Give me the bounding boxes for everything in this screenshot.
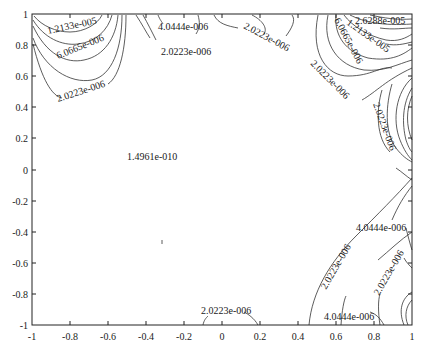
x-tick-label: 1	[410, 331, 415, 342]
x-tick-label: 0.8	[368, 331, 381, 342]
y-tick-label: 0	[23, 165, 28, 176]
x-tick-label: 0.4	[292, 331, 305, 342]
x-tick-label: -1	[28, 331, 36, 342]
contour-label: 2.0223e-006	[201, 305, 251, 316]
contour-label: 4.0444e-006	[356, 222, 406, 233]
y-tick-label: -1	[20, 320, 28, 331]
x-tick-label: 0	[220, 331, 225, 342]
x-tick-label: 0.6	[330, 331, 343, 342]
contour-labels: 1.2133e-005 6.0665e-006 2.0223e-006 4.04…	[46, 15, 406, 322]
x-tick-label: -0.6	[100, 331, 116, 342]
x-tick-label: -0.4	[138, 331, 154, 342]
contour-label: 2.0223e-006	[242, 20, 292, 53]
y-tick-label: -0.4	[12, 227, 28, 238]
y-tick-label: 0.8	[16, 40, 29, 51]
contour-label: 4.0444e-006	[324, 311, 374, 322]
x-tick-label: -0.8	[62, 331, 78, 342]
contour-label: 4.0444e-006	[158, 21, 208, 32]
y-tick-label: 0.4	[16, 102, 29, 113]
y-tick-label: 1	[23, 9, 28, 20]
x-tick-labels: -1 -0.8 -0.6 -0.4 -0.2 0 0.2 0.4 0.6 0.8…	[28, 331, 415, 342]
contour-label: 2.0223e-006	[309, 58, 352, 101]
y-tick-label: -0.8	[12, 289, 28, 300]
contour-label: 2.0223e-006	[161, 46, 211, 57]
y-tick-label: -0.2	[12, 196, 28, 207]
y-tick-label: -0.6	[12, 258, 28, 269]
contour-label: 1.4961e-010	[127, 151, 177, 162]
y-tick-labels: 1 0.8 0.6 0.4 0.2 0 -0.2 -0.4 -0.6 -0.8 …	[12, 9, 28, 331]
x-tick-label: 0.2	[254, 331, 267, 342]
y-tick-label: 0.6	[16, 71, 29, 82]
contour-label: 1.2133e-005	[46, 15, 97, 36]
x-tick-label: -0.2	[176, 331, 192, 342]
contour-plot: -1 -0.8 -0.6 -0.4 -0.2 0 0.2 0.4 0.6 0.8…	[0, 0, 424, 349]
contour-label: 2.0223e-006	[371, 101, 399, 152]
y-tick-label: 0.2	[16, 133, 29, 144]
contour-label: 6.0665e-006	[55, 32, 106, 61]
contour-label: 2.0223e-006	[371, 248, 406, 297]
contour-label: 2.0223e-006	[318, 242, 353, 291]
contour-label: 2.0223e-006	[55, 78, 106, 104]
